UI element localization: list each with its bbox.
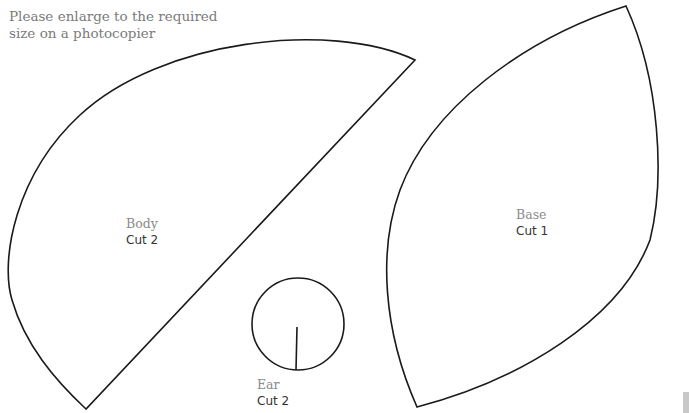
base-label: Base Cut 1 [516, 206, 548, 240]
body-label: Body Cut 2 [126, 215, 158, 249]
base-name: Base [516, 206, 548, 223]
pattern-pieces [0, 0, 689, 413]
body-piece-outline [8, 40, 415, 409]
ear-cut-line [296, 327, 297, 370]
ear-cut-count: Cut 2 [257, 393, 289, 410]
ear-label: Ear Cut 2 [257, 376, 289, 410]
body-name: Body [126, 215, 158, 232]
page-edge-mark [683, 392, 689, 413]
ear-name: Ear [257, 376, 289, 393]
body-cut-count: Cut 2 [126, 232, 158, 249]
ear-piece-outline [252, 278, 344, 370]
base-cut-count: Cut 1 [516, 223, 548, 240]
